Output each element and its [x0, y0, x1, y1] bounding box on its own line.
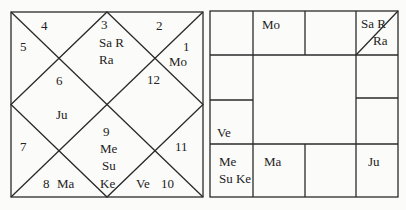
house-10-planet-1: Ve	[136, 176, 150, 191]
house-6-planet-1: Ju	[56, 107, 68, 122]
house-num-5: 5	[20, 39, 27, 54]
house-num-10: 10	[161, 176, 174, 191]
house-num-6: 6	[56, 73, 63, 88]
house-8-planet-1: Ma	[57, 176, 74, 191]
cell-bottom-1-a: Me	[219, 154, 236, 169]
house-num-12: 12	[147, 72, 160, 87]
cell-bottom-2: Ma	[264, 154, 281, 169]
house-9-planet-1: Me	[100, 141, 117, 156]
house-num-3: 3	[101, 17, 108, 32]
cell-top-4-b: Ra	[373, 33, 387, 48]
house-num-8: 8	[43, 176, 50, 191]
cell-bottom-4: Ju	[368, 154, 380, 169]
house-num-11: 11	[175, 139, 188, 154]
house-num-1: 1	[183, 39, 190, 54]
house-3-planet-2: Ra	[99, 52, 113, 67]
house-num-9: 9	[103, 124, 110, 139]
house-9-planet-2: Su	[102, 158, 116, 173]
house-1-planet-1: Mo	[169, 54, 187, 69]
house-num-4: 4	[41, 18, 48, 33]
house-9-planet-3: Ke	[100, 176, 115, 191]
house-3-planet-1: Sa R	[99, 35, 124, 50]
south-chart-lines	[210, 11, 398, 197]
house-num-7: 7	[20, 139, 27, 154]
cell-top-2: Mo	[262, 17, 280, 32]
cell-bottom-1-b: Su Ke	[219, 171, 251, 186]
house-num-2: 2	[156, 18, 163, 33]
cell-left-3: Ve	[217, 125, 231, 140]
cell-top-4-a: Sa R	[361, 16, 386, 31]
